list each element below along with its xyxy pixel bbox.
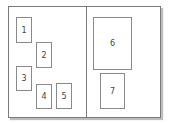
box-4: 4 bbox=[36, 84, 52, 109]
box-label: 2 bbox=[41, 51, 46, 60]
box-6: 6 bbox=[93, 17, 132, 70]
page-spread-frame: 1 2 3 4 5 6 7 bbox=[8, 6, 161, 118]
box-5: 5 bbox=[56, 83, 72, 109]
box-7: 7 bbox=[100, 73, 125, 109]
box-2: 2 bbox=[36, 42, 52, 68]
spread-divider bbox=[86, 7, 87, 117]
box-1: 1 bbox=[16, 17, 32, 43]
box-label: 3 bbox=[21, 74, 26, 83]
box-label: 6 bbox=[110, 39, 115, 48]
box-label: 1 bbox=[21, 26, 26, 35]
box-3: 3 bbox=[16, 66, 32, 91]
box-label: 4 bbox=[41, 92, 46, 101]
box-label: 5 bbox=[61, 92, 66, 101]
box-label: 7 bbox=[110, 87, 115, 96]
